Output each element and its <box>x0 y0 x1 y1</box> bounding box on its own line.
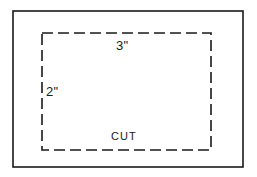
width-dimension-label: 3" <box>116 39 128 52</box>
diagram-canvas: 3" 2" CUT <box>0 0 257 177</box>
cut-diagram-graphic <box>0 0 257 177</box>
cut-action-label: CUT <box>111 131 137 142</box>
height-dimension-label: 2" <box>46 85 58 98</box>
